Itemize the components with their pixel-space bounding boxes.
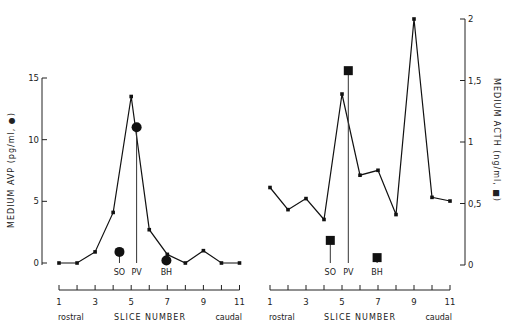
acth-y-axis-label: MEDIUM ACTH (ng/ml, ■) xyxy=(492,78,501,202)
data-point xyxy=(57,261,61,265)
data-point xyxy=(238,261,242,265)
marker-circle xyxy=(114,247,124,257)
marker-square xyxy=(373,253,382,262)
data-point xyxy=(220,261,224,265)
y-tick-label: 10 xyxy=(28,135,39,145)
y-tick-label: 0 xyxy=(468,260,473,270)
data-point xyxy=(184,261,188,265)
avp-rostral-label: rostral xyxy=(58,313,84,322)
data-point xyxy=(268,186,272,190)
x-tick-label: 3 xyxy=(303,297,308,307)
marker-circle xyxy=(161,256,171,266)
marker-label: PV xyxy=(343,268,354,277)
data-point xyxy=(430,196,434,200)
marker-label: SO xyxy=(114,268,125,277)
acth-chart: 00,511,52 1357911 SOPVBH MEDIUM ACTH (ng… xyxy=(267,14,501,322)
acth-y-axis: 00,511,52 xyxy=(460,14,482,270)
avp-series-line xyxy=(59,97,240,264)
marker-label: BH xyxy=(371,268,383,277)
avp-x-axis-label: SLICE NUMBER xyxy=(114,313,186,322)
acth-rostral-label: rostral xyxy=(269,313,295,322)
data-point xyxy=(304,197,308,201)
marker-label: SO xyxy=(325,268,336,277)
acth-caudal-label: caudal xyxy=(425,313,452,322)
marker-label: PV xyxy=(131,268,142,277)
acth-x-axis-label: SLICE NUMBER xyxy=(324,313,396,322)
y-tick-label: 15 xyxy=(28,73,39,83)
data-point xyxy=(111,211,115,215)
data-point xyxy=(448,199,452,203)
data-point xyxy=(322,218,326,222)
x-tick-label: 3 xyxy=(92,297,97,307)
y-tick-label: 1,5 xyxy=(468,76,482,86)
x-tick-label: 7 xyxy=(165,297,170,307)
data-point xyxy=(412,17,416,21)
avp-x-axis: 1357911 xyxy=(56,285,245,307)
avp-series-points xyxy=(57,95,241,265)
x-tick-label: 5 xyxy=(339,297,344,307)
x-tick-label: 11 xyxy=(445,297,456,307)
y-tick-label: 0 xyxy=(34,258,39,268)
avp-region-markers: SOPVBH xyxy=(114,122,172,277)
y-tick-label: 2 xyxy=(468,14,473,24)
data-point xyxy=(202,249,206,253)
data-point xyxy=(129,95,133,99)
data-point xyxy=(340,92,344,96)
marker-label: BH xyxy=(161,268,173,277)
marker-square xyxy=(344,66,353,75)
y-tick-label: 5 xyxy=(34,196,39,206)
y-tick-label: 1 xyxy=(468,137,473,147)
x-tick-label: 1 xyxy=(56,297,61,307)
x-tick-label: 1 xyxy=(267,297,272,307)
avp-caudal-label: caudal xyxy=(215,313,242,322)
x-tick-label: 9 xyxy=(201,297,206,307)
avp-chart: 051015 1357911 SOPVBH MEDIUM AVP (pg/ml,… xyxy=(7,73,245,322)
data-point xyxy=(376,168,380,172)
data-point xyxy=(358,173,362,177)
x-tick-label: 5 xyxy=(128,297,133,307)
data-point xyxy=(75,261,79,265)
x-tick-label: 7 xyxy=(375,297,380,307)
chart-canvas: 051015 1357911 SOPVBH MEDIUM AVP (pg/ml,… xyxy=(0,0,514,330)
y-tick-label: 0,5 xyxy=(468,199,482,209)
avp-y-axis: 051015 xyxy=(28,73,47,268)
x-tick-label: 11 xyxy=(234,297,245,307)
marker-circle xyxy=(132,122,142,132)
acth-x-axis: 1357911 xyxy=(267,285,455,307)
data-point xyxy=(147,228,151,232)
data-point xyxy=(93,250,97,254)
data-point xyxy=(394,213,398,217)
marker-square xyxy=(326,236,335,245)
data-point xyxy=(286,208,290,212)
x-tick-label: 9 xyxy=(411,297,416,307)
avp-y-axis-label: MEDIUM AVP (pg/ml, ●) xyxy=(7,112,16,228)
acth-series-line xyxy=(270,19,450,220)
